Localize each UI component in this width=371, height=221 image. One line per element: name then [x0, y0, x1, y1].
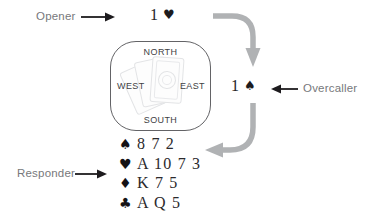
spade-holding: 8 7 2 — [137, 135, 175, 153]
club-suit-icon: ♣ — [119, 195, 137, 211]
responder-pointer-arrow-icon — [75, 169, 107, 179]
bridge-bidding-diagram: Opener 1 ♥ NORTH WEST EAST SOUTH 1 ♠ — [0, 0, 371, 221]
fanned-card-front-icon — [149, 56, 184, 104]
opener-label: Opener — [36, 10, 76, 22]
hand-row-hearts: ♥ A 10 7 3 — [119, 154, 201, 174]
responder-hand: ♠ 8 7 2 ♥ A 10 7 3 ♦ K 7 5 ♣ A Q 5 — [119, 134, 201, 213]
spade-suit-icon: ♠ — [119, 136, 137, 152]
hand-row-diamonds: ♦ K 7 5 — [119, 174, 201, 194]
compass-north-label: NORTH — [111, 47, 210, 57]
compass-south-label: SOUTH — [111, 115, 210, 125]
hand-row-clubs: ♣ A Q 5 — [119, 193, 201, 213]
hand-row-spades: ♠ 8 7 2 — [119, 134, 201, 154]
opener-bid: 1 ♥ — [150, 7, 175, 23]
spade-suit-icon: ♠ — [244, 79, 256, 93]
overcaller-bid-level: 1 — [231, 78, 239, 94]
compass-west-label: WEST — [117, 81, 145, 91]
flow-arrow-opener-to-overcaller-icon — [210, 11, 266, 73]
club-holding: A Q 5 — [137, 194, 181, 212]
overcaller-pointer-arrow-icon — [271, 84, 298, 94]
heart-holding: A 10 7 3 — [137, 155, 201, 173]
table-compass: NORTH WEST EAST SOUTH — [110, 41, 211, 131]
compass-east-label: EAST — [180, 81, 205, 91]
diamond-holding: K 7 5 — [137, 174, 179, 192]
diamond-suit-icon: ♦ — [119, 175, 137, 191]
overcaller-label: Overcaller — [303, 82, 357, 94]
overcaller-bid: 1 ♠ — [231, 78, 256, 94]
opener-bid-level: 1 — [150, 7, 158, 23]
responder-label: Responder — [17, 167, 75, 179]
heart-suit-icon: ♥ — [119, 156, 137, 172]
heart-suit-icon: ♥ — [163, 8, 175, 22]
opener-pointer-arrow-icon — [81, 12, 115, 22]
